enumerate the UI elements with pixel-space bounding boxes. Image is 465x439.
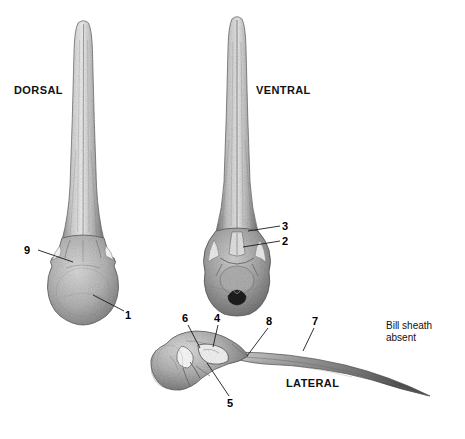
callout-number-1: 1	[125, 309, 131, 321]
callout-number-9: 9	[24, 244, 30, 256]
view-label-dorsal: DORSAL	[14, 84, 63, 96]
view-label-ventral: VENTRAL	[256, 84, 311, 96]
bill-sheath-note-line1: Bill sheath	[386, 320, 432, 332]
view-label-lateral: LATERAL	[286, 377, 339, 389]
lateral-cranium	[151, 331, 248, 390]
dorsal-skull-specimen	[47, 21, 118, 325]
callout-number-8: 8	[266, 315, 272, 327]
ventral-skull-specimen	[204, 17, 271, 316]
callout-number-2: 2	[282, 235, 288, 247]
skull-plate-figure	[0, 0, 465, 439]
callout-number-6: 6	[182, 312, 188, 324]
callout-number-4: 4	[214, 312, 220, 324]
callout-number-5: 5	[227, 397, 233, 409]
leader-line-8	[247, 328, 268, 356]
callout-number-3: 3	[282, 220, 288, 232]
bill-sheath-note: Bill sheath absent	[386, 320, 432, 344]
lateral-upper-bill	[233, 352, 430, 396]
bill-sheath-note-line2: absent	[386, 332, 432, 344]
callout-number-7: 7	[312, 315, 318, 327]
leader-line-7	[303, 328, 314, 351]
